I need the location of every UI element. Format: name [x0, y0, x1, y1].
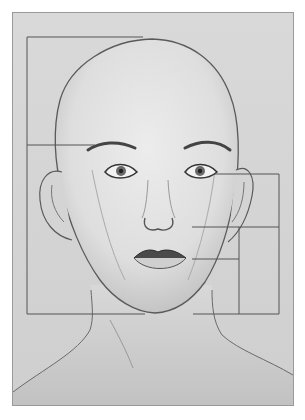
- face-drawing: [0, 0, 305, 420]
- head: [40, 39, 253, 313]
- drawing-canvas: [0, 0, 305, 420]
